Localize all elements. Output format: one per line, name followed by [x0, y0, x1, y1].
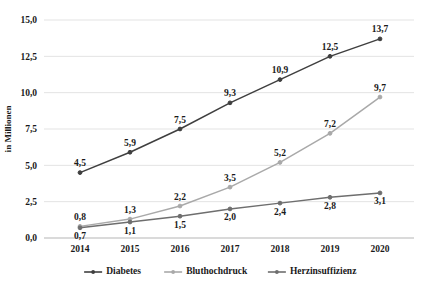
legend-label: Diabetes	[106, 266, 141, 276]
data-point	[178, 214, 182, 218]
y-axis-tick-label: 5,0	[25, 161, 37, 171]
data-label: 0,7	[74, 231, 86, 241]
data-labels-herzinsuffizienz: 0,71,11,52,02,42,83,1	[74, 196, 386, 241]
data-point	[128, 150, 132, 154]
data-point	[78, 226, 82, 230]
series-diabetes	[78, 37, 382, 175]
data-label: 13,7	[372, 24, 389, 34]
data-point	[378, 95, 382, 99]
data-point	[78, 171, 82, 175]
x-axis-tick-label: 2016	[171, 244, 190, 254]
y-axis-tick-label: 12,5	[20, 52, 37, 62]
x-axis-tick-label: 2020	[371, 244, 390, 254]
x-axis-tick-label: 2015	[121, 244, 140, 254]
data-label: 7,5	[174, 115, 186, 125]
chart-canvas: 0,02,55,07,510,012,515,0in Millionen2014…	[0, 0, 421, 287]
chart-legend: DiabetesBluthochdruckHerzinsuffizienz	[84, 266, 357, 276]
data-label: 9,7	[374, 83, 386, 93]
data-point	[278, 78, 282, 82]
data-label: 0,8	[74, 212, 86, 222]
data-label: 10,9	[272, 65, 289, 75]
x-axis-tick-label: 2014	[71, 244, 90, 254]
data-labels-diabetes: 4,55,97,59,310,912,513,7	[74, 24, 389, 168]
data-label: 4,5	[74, 158, 86, 168]
legend-item-bluthochdruck[interactable]: Bluthochdruck	[164, 266, 248, 276]
data-point	[378, 191, 382, 195]
y-axis-tick-label: 7,5	[25, 124, 37, 134]
data-label: 2,4	[274, 207, 286, 217]
data-label: 5,2	[274, 148, 286, 158]
data-label: 2,0	[224, 212, 236, 222]
legend-marker-dot	[171, 270, 175, 274]
legend-marker-dot	[275, 270, 279, 274]
y-axis-tick-label: 10,0	[20, 88, 37, 98]
y-axis-tick-label: 2,5	[25, 197, 37, 207]
data-label: 12,5	[322, 42, 339, 52]
y-axis-tick-label: 0,0	[25, 233, 37, 243]
x-axis-tick-label: 2019	[321, 244, 340, 254]
series-line	[80, 39, 380, 173]
data-label: 3,5	[224, 173, 236, 183]
data-point	[328, 54, 332, 58]
x-axis-tick-label: 2018	[271, 244, 290, 254]
data-label: 1,5	[174, 220, 186, 230]
data-label: 7,2	[324, 119, 336, 129]
data-point	[128, 220, 132, 224]
data-label: 2,8	[324, 201, 336, 211]
data-point	[328, 195, 332, 199]
legend-item-herzinsuffizienz[interactable]: Herzinsuffizienz	[268, 266, 357, 276]
data-point	[328, 131, 332, 135]
data-point	[278, 161, 282, 165]
legend-item-diabetes[interactable]: Diabetes	[84, 266, 141, 276]
x-axis-tick-label: 2017	[221, 244, 240, 254]
x-axis-tick-labels: 2014201520162017201820192020	[71, 244, 390, 254]
data-point	[278, 201, 282, 205]
data-label: 2,2	[174, 192, 186, 202]
legend-label: Bluthochdruck	[186, 266, 248, 276]
legend-label: Herzinsuffizienz	[290, 266, 357, 276]
data-label: 1,3	[124, 205, 136, 215]
data-point	[228, 101, 232, 105]
line-chart: 0,02,55,07,510,012,515,0in Millionen2014…	[0, 0, 421, 287]
data-point	[228, 185, 232, 189]
y-axis-tick-label: 15,0	[20, 15, 37, 25]
data-label: 5,9	[124, 138, 136, 148]
data-point	[178, 204, 182, 208]
data-point	[378, 37, 382, 41]
y-axis-title: in Millionen	[3, 106, 13, 153]
data-point	[228, 207, 232, 211]
data-point	[178, 127, 182, 131]
data-label: 3,1	[374, 196, 386, 206]
legend-marker-dot	[91, 270, 95, 274]
data-label: 9,3	[224, 88, 236, 98]
data-label: 1,1	[124, 226, 136, 236]
y-gridlines: 0,02,55,07,510,012,515,0	[20, 15, 414, 243]
